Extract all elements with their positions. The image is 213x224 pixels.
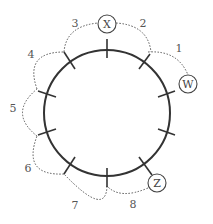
segment-label-7: 7	[72, 199, 79, 212]
arc-5	[23, 89, 38, 136]
node-x-label: X	[103, 18, 111, 31]
node-w-label: W	[182, 78, 194, 91]
node-z: Z	[148, 174, 166, 192]
segment-label-1: 1	[176, 42, 183, 55]
segment-label-8: 8	[130, 198, 137, 211]
node-w: W	[179, 75, 197, 93]
diagram-canvas: X W Z 1 2 3 4 5 6 7 8	[0, 0, 213, 224]
main-ring	[44, 50, 170, 176]
arc-8	[107, 186, 148, 194]
segment-label-2: 2	[140, 17, 147, 30]
node-z-label: Z	[153, 177, 161, 190]
node-x: X	[98, 15, 116, 33]
segment-label-4: 4	[28, 48, 35, 61]
arc-3	[64, 23, 98, 52]
segment-label-6: 6	[25, 162, 32, 175]
ticks	[38, 39, 175, 187]
ring-diagram: X W Z 1 2 3 4 5 6 7 8	[0, 0, 213, 224]
arc-7	[64, 174, 107, 199]
segment-label-3: 3	[72, 17, 79, 30]
segment-label-5: 5	[10, 102, 17, 115]
